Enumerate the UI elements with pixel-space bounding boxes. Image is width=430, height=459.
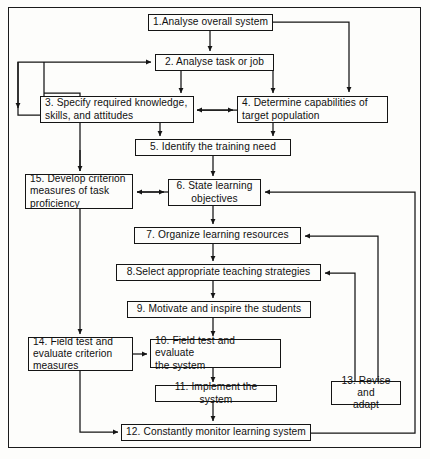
flow-node-8[interactable]: 8.Select appropriate teaching strategies [116,264,321,281]
flow-node-9[interactable]: 9. Motivate and inspire the students [127,301,311,318]
flow-node-4[interactable]: 4. Determine capabilities of target popu… [237,96,388,123]
flow-node-7[interactable]: 7. Organize learning resources [134,227,301,244]
flow-node-14[interactable]: 14. Field test and evaluate criterion me… [28,337,133,371]
flow-node-3[interactable]: 3. Specify required knowledge, skills, a… [40,96,194,123]
flow-node-2[interactable]: 2. Analyse task or job [155,54,274,71]
flowchart-canvas: 1.Analyse overall system 2. Analyse task… [0,0,430,459]
flow-node-6[interactable]: 6. State learning objectives [168,179,261,206]
flow-node-10[interactable]: 10. Field test and evaluate the system [150,339,281,368]
flow-node-12[interactable]: 12. Constantly monitor learning system [121,424,311,441]
flow-node-13[interactable]: 13. Revise and adapt [331,381,401,405]
flow-node-15[interactable]: 15. Develop criterion measures of task p… [25,174,133,209]
flow-node-1[interactable]: 1.Analyse overall system [148,14,273,31]
flow-node-11[interactable]: 11. Implement the system [155,385,277,402]
flow-node-5[interactable]: 5. Identify the training need [135,139,291,156]
